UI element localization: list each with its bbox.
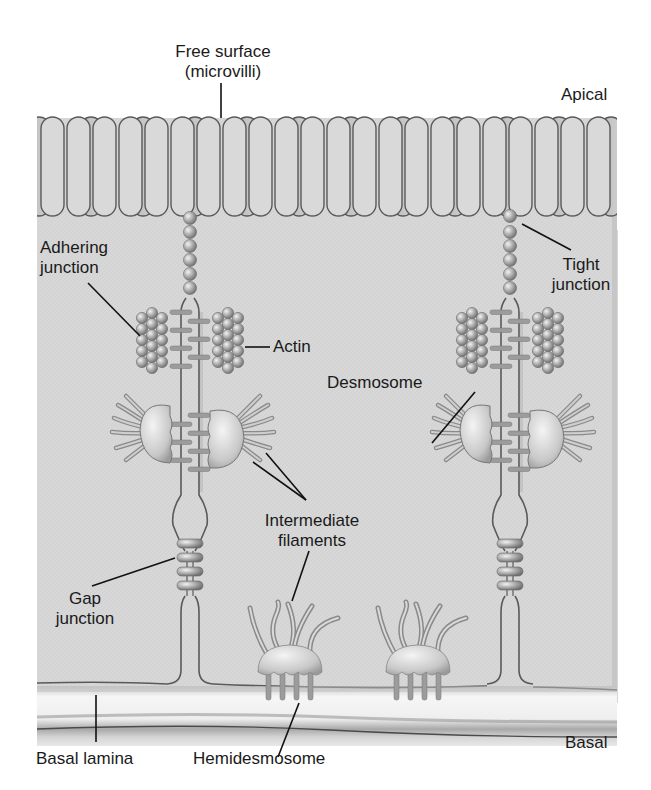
label-apical: Apical [561, 85, 607, 105]
label-intermediate-filaments: Intermediate filaments [252, 511, 372, 551]
label-tight-junction: Tight junction [546, 255, 616, 295]
label-gap-junction: Gap junction [45, 589, 125, 629]
label-hemidesmosome: Hemidesmosome [193, 749, 325, 769]
label-free-surface: Free surface (microvilli) [148, 42, 298, 82]
diagram-art [0, 0, 651, 790]
label-actin: Actin [273, 337, 311, 357]
label-desmosome: Desmosome [327, 373, 422, 393]
epithelial-junctions-diagram: Free surface (microvilli) Apical Adherin… [0, 0, 651, 790]
label-basal-lamina: Basal lamina [36, 749, 133, 769]
label-basal: Basal [565, 733, 608, 753]
basal-lamina [37, 686, 617, 746]
label-adhering-junction: Adhering junction [40, 238, 108, 278]
